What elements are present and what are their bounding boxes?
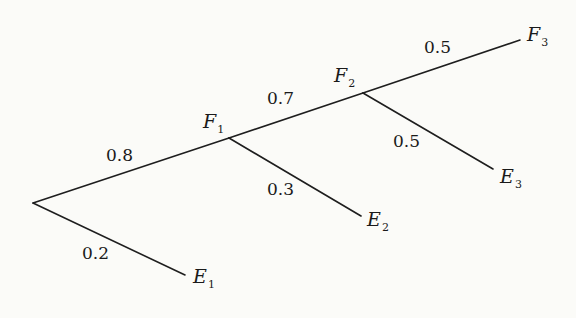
node-f3: F3 (527, 25, 548, 48)
prob-root-f1: 0.8 (106, 147, 133, 164)
prob-f2-f3: 0.5 (424, 39, 451, 56)
node-e1: E1 (193, 267, 215, 290)
prob-f2-e3: 0.5 (393, 133, 420, 150)
node-e2: E2 (367, 210, 389, 233)
node-f1: F1 (203, 112, 224, 135)
tree-lines (0, 0, 576, 318)
prob-f1-e2: 0.3 (267, 181, 294, 198)
node-f2: F2 (334, 66, 355, 89)
prob-root-e1: 0.2 (82, 245, 109, 262)
prob-f1-f2: 0.7 (267, 90, 294, 107)
edge-f1-f2 (229, 93, 363, 138)
edge-f2-e3 (363, 93, 493, 169)
node-e3: E3 (500, 167, 522, 190)
edge-f1-e2 (229, 138, 361, 216)
edge-root-e1 (33, 203, 185, 275)
